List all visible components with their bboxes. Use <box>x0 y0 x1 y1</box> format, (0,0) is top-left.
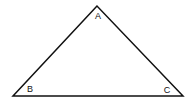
vertex-label-a: A <box>95 11 101 21</box>
vertex-label-b: B <box>27 84 33 94</box>
vertex-label-c: C <box>164 85 171 95</box>
triangle-diagram: A B C <box>0 0 192 103</box>
